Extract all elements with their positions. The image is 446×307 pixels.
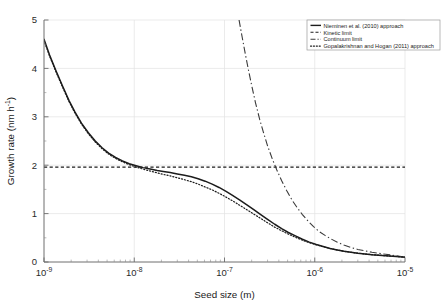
legend-label-3[interactable]: Gopalakrishnan and Hogan (2011) approach [324,43,434,49]
legend-label-2[interactable]: Continuum limit [324,36,363,42]
x-tick-label: 10-9 [36,266,53,278]
y-tick-label: 0 [32,256,37,267]
x-axis-title: Seed size (m) [194,289,254,300]
series-path-2 [239,20,405,257]
x-tick-label: 10-6 [306,266,323,278]
y-tick-label: 5 [32,14,37,25]
growth-rate-chart: 10-910-810-710-610-5012345 Seed size (m)… [0,0,446,307]
legend-label-1[interactable]: Kinetic limit [324,30,353,36]
gridlines [44,20,405,262]
y-tick-label: 2 [32,160,37,171]
chart-canvas: 10-910-810-710-610-5012345 Seed size (m)… [0,0,446,307]
y-tick-label: 1 [32,208,37,219]
x-tick-label: 10-5 [397,266,414,278]
legend-label-0[interactable]: Nieminen et al. (2010) approach [324,23,404,29]
x-tick-label: 10-7 [216,266,233,278]
tick-labels: 10-910-810-710-610-5012345 [32,14,414,278]
y-axis-title: Growth rate (nm h-1) [4,97,16,185]
legend[interactable]: Nieminen et al. (2010) approachKinetic l… [307,20,440,50]
x-tick-label: 10-8 [126,266,143,278]
y-tick-label: 3 [32,111,37,122]
y-tick-label: 4 [32,63,37,74]
